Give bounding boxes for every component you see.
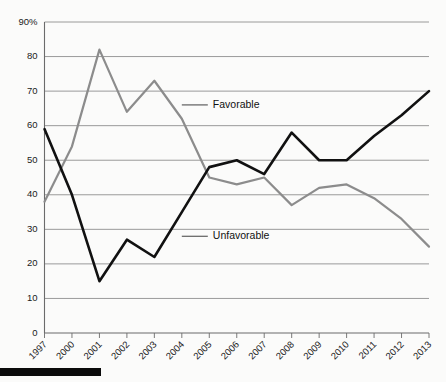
x-tick-label-2009: 2009: [301, 339, 324, 362]
x-tick-label-2000: 2000: [54, 339, 77, 362]
chart-canvas: 0102030405060708090% 1997200020012002200…: [0, 0, 446, 382]
x-tick-label-2006: 2006: [218, 339, 241, 362]
y-tick-label-50: 50: [27, 154, 38, 165]
series-lines: [45, 50, 430, 282]
y-tick-label-80: 80: [27, 50, 38, 61]
series-label-favorable: Favorable: [213, 98, 260, 110]
x-tick-label-2004: 2004: [164, 339, 187, 362]
x-tick-label-2005: 2005: [191, 339, 214, 362]
x-tick-label-2012: 2012: [383, 339, 406, 362]
x-tick-label-2008: 2008: [273, 339, 296, 362]
y-tick-label-60: 60: [27, 119, 38, 130]
y-tick-label-30: 30: [27, 223, 38, 234]
series-label-unfavorable: Unfavorable: [213, 229, 270, 241]
x-tick-label-2001: 2001: [81, 339, 104, 362]
series-line-favorable: [45, 50, 430, 247]
y-tick-label-10: 10: [27, 292, 38, 303]
line-chart: 0102030405060708090% 1997200020012002200…: [0, 0, 446, 382]
y-tick-label-40: 40: [27, 188, 38, 199]
y-tick-label-70: 70: [27, 85, 38, 96]
x-tick-label-2013: 2013: [411, 339, 434, 362]
y-tick-label-20: 20: [27, 257, 38, 268]
x-tick-label-2003: 2003: [136, 339, 159, 362]
x-tick-label-2007: 2007: [246, 339, 269, 362]
x-tick-label-2010: 2010: [328, 339, 351, 362]
y-tick-label-0: 0: [32, 327, 37, 338]
footer-rule-bar: [0, 368, 101, 376]
x-tick-label-1997: 1997: [26, 339, 49, 362]
x-axis: 1997200020012002200320042005200620072008…: [26, 333, 433, 361]
x-tick-label-2002: 2002: [109, 339, 132, 362]
y-tick-label-90: 90%: [18, 16, 38, 27]
series-line-unfavorable: [45, 91, 430, 281]
y-axis: 0102030405060708090%: [18, 16, 44, 338]
x-tick-label-2011: 2011: [356, 339, 378, 361]
